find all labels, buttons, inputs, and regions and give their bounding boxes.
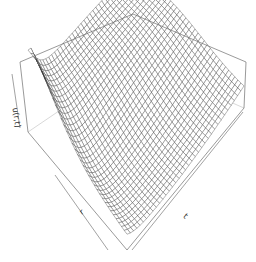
- surface-plot: u(r,t) r t: [0, 0, 256, 262]
- surface-mesh: [28, 0, 244, 234]
- mesh-facet: [28, 48, 34, 54]
- box-edge-right-vertical: [244, 62, 246, 108]
- y-axis-label: t: [182, 212, 190, 221]
- z-axis-label: u(r,t): [11, 107, 23, 128]
- x-axis-label: r: [78, 207, 86, 217]
